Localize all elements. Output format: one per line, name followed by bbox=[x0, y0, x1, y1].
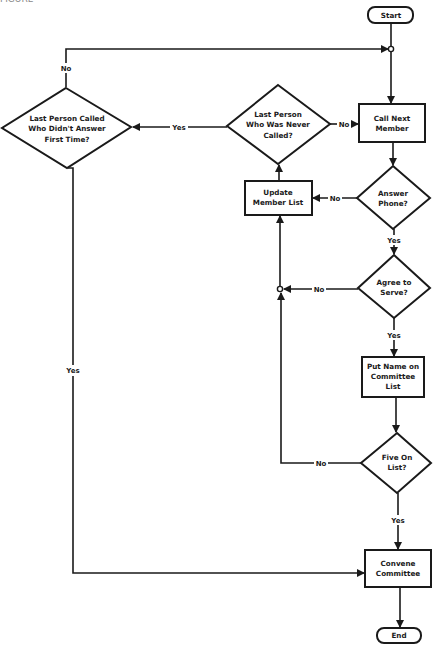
node-didnt-answer-first-time: Last Person Called Who Didn't Answer Fir… bbox=[2, 88, 131, 168]
edge-label-answer-no: No bbox=[328, 193, 342, 203]
svg-text:Who Didn't Answer: Who Didn't Answer bbox=[28, 124, 106, 133]
node-convene-committee: Convene Committee bbox=[365, 550, 431, 587]
svg-text:Put Name on: Put Name on bbox=[367, 362, 419, 371]
svg-text:Yes: Yes bbox=[386, 332, 400, 340]
svg-text:Yes: Yes bbox=[386, 237, 400, 245]
svg-text:Last Person Called: Last Person Called bbox=[29, 114, 104, 123]
node-update-member-list: Update Member List bbox=[245, 181, 312, 215]
node-call-next-member: Call Next Member bbox=[359, 104, 425, 142]
edge-label-agree-no: No bbox=[312, 284, 326, 294]
node-never-called: Last Person Who Was Never Called? bbox=[227, 85, 330, 164]
svg-text:First Time?: First Time? bbox=[44, 135, 89, 144]
svg-text:Yes: Yes bbox=[171, 124, 185, 132]
svg-text:Agree to: Agree to bbox=[377, 278, 412, 287]
svg-text:Yes: Yes bbox=[65, 367, 79, 375]
svg-text:Committee: Committee bbox=[376, 569, 420, 578]
edge-label-never-yes: Yes bbox=[170, 122, 188, 132]
junction-top bbox=[388, 46, 393, 51]
edge-label-answer-yes: Yes bbox=[385, 235, 403, 245]
svg-text:Serve?: Serve? bbox=[380, 288, 407, 297]
edge-didnt-answer-yes bbox=[68, 168, 364, 573]
edge-label-five-yes: Yes bbox=[389, 515, 407, 525]
svg-text:No: No bbox=[339, 121, 350, 129]
svg-text:Member: Member bbox=[375, 124, 409, 133]
svg-text:No: No bbox=[314, 286, 325, 294]
node-agree-to-serve: Agree to Serve? bbox=[358, 255, 430, 318]
node-five-on-list: Five On List? bbox=[361, 433, 431, 493]
svg-text:Five On: Five On bbox=[382, 453, 413, 462]
edge-label-agree-yes: Yes bbox=[385, 330, 403, 340]
edge-label-didnt-answer-no: No bbox=[58, 63, 74, 73]
svg-text:Phone?: Phone? bbox=[378, 199, 407, 208]
svg-text:Call Next: Call Next bbox=[374, 114, 411, 123]
svg-text:Committee: Committee bbox=[371, 372, 415, 381]
edge-label-didnt-answer-yes: Yes bbox=[63, 365, 83, 376]
node-put-name-on-list: Put Name on Committee List bbox=[362, 357, 424, 397]
svg-text:Yes: Yes bbox=[390, 517, 404, 525]
svg-text:Update: Update bbox=[263, 188, 292, 197]
svg-text:Start: Start bbox=[381, 11, 402, 20]
svg-text:Last Person: Last Person bbox=[254, 110, 302, 119]
svg-text:No: No bbox=[316, 460, 327, 468]
node-start: Start bbox=[368, 7, 413, 23]
svg-text:Answer: Answer bbox=[378, 189, 408, 198]
svg-text:No: No bbox=[61, 65, 72, 73]
node-end: End bbox=[377, 628, 421, 643]
node-answer-phone: Answer Phone? bbox=[357, 166, 430, 229]
edge-label-never-no: No bbox=[337, 119, 351, 129]
svg-text:End: End bbox=[391, 631, 406, 640]
edge-label-five-no: No bbox=[314, 458, 328, 468]
flowchart: No Yes No No Yes No Yes No Yes Yes Start bbox=[0, 0, 435, 647]
edge-five-no bbox=[281, 293, 361, 463]
svg-text:Called?: Called? bbox=[263, 131, 292, 140]
svg-text:Member List: Member List bbox=[253, 198, 304, 207]
svg-text:List?: List? bbox=[388, 463, 407, 472]
svg-text:No: No bbox=[330, 195, 341, 203]
svg-text:Who Was Never: Who Was Never bbox=[246, 120, 310, 129]
junction-middle bbox=[277, 286, 282, 291]
edge-didnt-answer-no bbox=[66, 49, 388, 87]
svg-text:List: List bbox=[386, 382, 401, 391]
svg-text:Convene: Convene bbox=[381, 559, 416, 568]
